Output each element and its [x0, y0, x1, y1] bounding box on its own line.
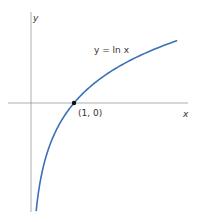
ln-chart: y x y = ln x (1, 0) — [0, 0, 202, 222]
curve-label: y = ln x — [94, 45, 130, 55]
x-axis-label: x — [182, 109, 189, 119]
point-label: (1, 0) — [78, 108, 102, 118]
ln-curve — [36, 41, 177, 212]
y-axis-label: y — [32, 13, 39, 23]
point-1-0-marker — [72, 101, 76, 105]
